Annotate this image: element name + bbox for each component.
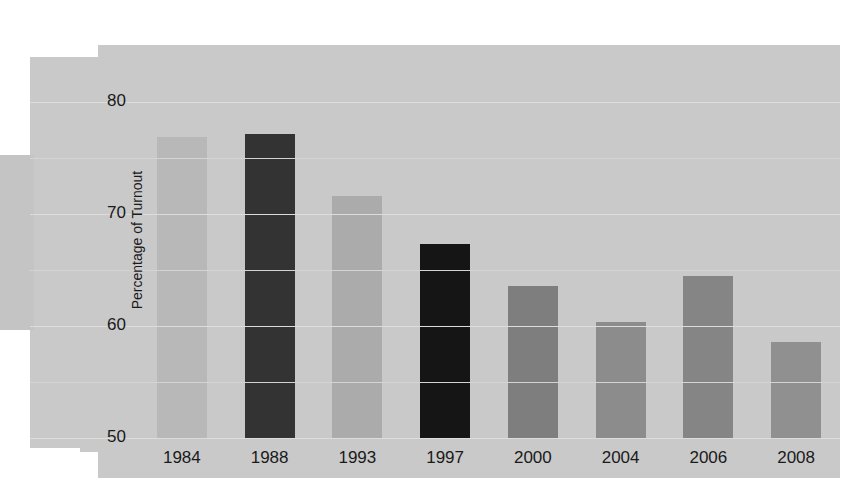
x-tick-label: 1993: [317, 448, 397, 468]
gridline-major: [30, 214, 840, 215]
chart-background-left-bleed: [0, 155, 34, 330]
bar: [157, 137, 207, 438]
bar: [683, 276, 733, 438]
bottom-left-white-notch-step: [80, 452, 98, 480]
y-tick-label: 50: [86, 427, 126, 447]
plot-area: [138, 102, 840, 438]
bottom-left-white-notch: [30, 448, 80, 480]
gridline-major: [30, 326, 840, 327]
x-tick-label: 2006: [668, 448, 748, 468]
x-tick-label: 1997: [405, 448, 485, 468]
bar: [245, 134, 295, 438]
gridline-major: [30, 102, 840, 103]
bar: [771, 342, 821, 438]
top-left-white-notch: [30, 45, 98, 57]
bar-chart-figure: 50607080 1984198819931997200020042006200…: [0, 0, 863, 492]
bar: [420, 244, 470, 438]
bar: [332, 196, 382, 438]
gridline-minor: [30, 158, 840, 159]
x-tick-label: 1988: [230, 448, 310, 468]
y-axis-title: Percentage of Turnout: [129, 145, 145, 335]
x-tick-label: 2000: [493, 448, 573, 468]
bar: [508, 286, 558, 438]
y-tick-label: 70: [86, 203, 126, 223]
gridline-major: [30, 438, 840, 439]
gridline-minor: [30, 270, 840, 271]
x-tick-label: 2008: [756, 448, 836, 468]
bar: [596, 322, 646, 438]
y-tick-label: 80: [86, 91, 126, 111]
gridline-minor: [30, 382, 840, 383]
y-tick-label: 60: [86, 315, 126, 335]
x-tick-label: 1984: [142, 448, 222, 468]
x-tick-label: 2004: [581, 448, 661, 468]
